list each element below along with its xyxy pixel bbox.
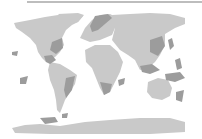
highlight-se-asia (140, 64, 160, 74)
asia (112, 13, 185, 70)
australia (147, 78, 172, 100)
south-america (48, 62, 77, 113)
highlight-pacific-island (20, 76, 28, 84)
antarctica (12, 118, 185, 134)
highlight-falklands (62, 113, 68, 118)
highlight-madagascar (118, 78, 125, 86)
highlight-hawaii (12, 51, 18, 56)
highlight-japan (168, 38, 174, 50)
world-map (0, 0, 202, 139)
highlight-new-zealand (176, 90, 184, 102)
highlight-melanesia (175, 58, 182, 70)
highlight-patagonia (40, 117, 58, 124)
